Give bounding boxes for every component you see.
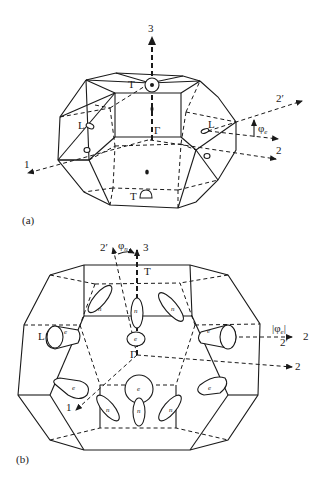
pocket-label-e: e xyxy=(64,328,67,336)
panel-a-T-bottom-label: T xyxy=(130,190,137,202)
panel-a: 3 1 2 2′ T T Γ L L φe (a) xyxy=(22,22,302,227)
pocket-label-e: e xyxy=(134,335,137,343)
pocket-label-n: n xyxy=(137,407,141,415)
panel-a-caption-label: (a) xyxy=(22,214,35,227)
panel-a-gamma-label: Γ xyxy=(154,124,160,136)
panel-a-L-right-label: L xyxy=(208,118,215,130)
panel-b-axis-3-label: 3 xyxy=(143,241,149,253)
panel-b-caption-label: (b) xyxy=(16,453,29,466)
panel-b-gamma-label: Γ xyxy=(130,348,136,360)
pocket-label-n: n xyxy=(169,406,173,414)
pocket-label-e: e xyxy=(207,327,210,335)
pocket-label-e: e xyxy=(72,384,75,392)
panel-a-axis-1-label: 1 xyxy=(24,158,30,170)
panel-a-axis-3-label: 3 xyxy=(148,22,154,34)
panel-a-axis-2-label: 2 xyxy=(276,144,282,156)
brillouin-zone-diagram: 3 1 2 2′ T T Γ L L φe (a) xyxy=(0,0,326,483)
panel-b-axis-1-label: 1 xyxy=(66,401,72,413)
panel-b-angle-e-label: |φe| xyxy=(272,322,286,336)
panel-a-L-left-label: L xyxy=(78,119,85,131)
panel-b-T-label: T xyxy=(144,265,151,277)
pocket-label-n: n xyxy=(171,305,175,313)
panel-a-axis-2prime-label: 2′ xyxy=(276,92,284,104)
panel-b-angle-n-label: φn xyxy=(118,239,128,253)
panel-b-e-pocket-lower-right xyxy=(198,377,227,395)
panel-a-axis-2-direction xyxy=(208,131,278,139)
panel-b-L-label: L xyxy=(38,330,45,342)
panel-b-axis-2prime-top-label: 2′ xyxy=(100,241,108,253)
panel-a-T-top-label: T xyxy=(128,78,135,90)
panel-a-axis-2-prime xyxy=(208,101,302,131)
panel-b-axis-2-lower-label: 2 xyxy=(295,360,301,372)
panel-b: n n n e e e e e e n n n 3 2′ φn T Γ L 1 … xyxy=(16,239,309,466)
panel-a-center-point xyxy=(145,169,149,174)
pocket-label-e: e xyxy=(208,384,211,392)
panel-a-L-pocket-left xyxy=(85,122,94,130)
pocket-label-n: n xyxy=(98,305,102,313)
pocket-label-n: n xyxy=(134,307,138,315)
panel-a-axis-2 xyxy=(150,140,276,159)
pocket-label-n: n xyxy=(106,406,110,414)
panel-a-pocket-right-lower xyxy=(204,154,210,159)
panel-b-axis-2-upper-label: 2 xyxy=(303,330,309,342)
panel-a-T-pocket-bottom xyxy=(140,190,152,198)
pocket-label-e: e xyxy=(137,385,140,393)
panel-a-angle-label: φe xyxy=(258,122,267,136)
panel-b-axis-2prime-right-label: 2′ xyxy=(280,336,288,348)
panel-a-pocket-left-lower xyxy=(84,148,90,153)
